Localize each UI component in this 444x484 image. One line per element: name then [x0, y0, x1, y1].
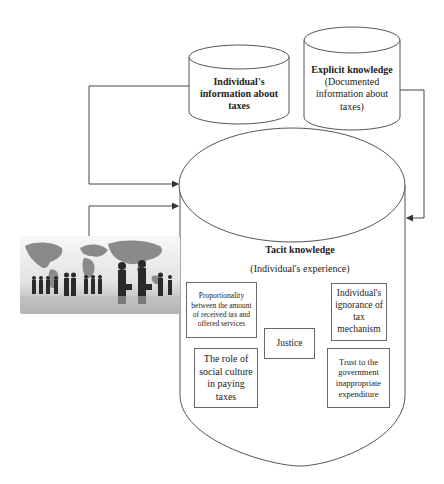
connector-image-to-tacit: [89, 206, 178, 236]
factor-trust-label: Trust to the government inappropriate ex…: [330, 357, 387, 400]
factor-trust-box: Trust to the government inappropriate ex…: [327, 348, 390, 408]
factor-justice-box: Justice: [264, 328, 315, 359]
factor-proportionality-box: Proportionality between the amount of re…: [186, 282, 257, 338]
tacit-knowledge-title: Tacit knowledge: [220, 244, 380, 256]
factor-social-culture-box: The role of social culture in paying tax…: [194, 348, 258, 408]
explicit-knowledge-text: Explicit knowledge (Documented informati…: [306, 64, 398, 113]
factor-ignorance-box: Individual's ignorance of tax mechanism: [331, 283, 387, 341]
individual-info-label: Individual's information about taxes: [194, 76, 284, 113]
world-map-icon: [20, 236, 180, 314]
factor-proportionality-label: Proportionality between the amount of re…: [189, 291, 254, 329]
factor-ignorance-label: Individual's ignorance of tax mechanism: [334, 288, 384, 336]
factor-social-culture-label: The role of social culture in paying tax…: [197, 353, 255, 403]
explicit-knowledge-subtitle: (Documented information about taxes): [306, 76, 398, 113]
explicit-knowledge-title: Explicit knowledge: [306, 64, 398, 76]
tacit-knowledge-subtitle: (Individual's experience): [220, 263, 380, 275]
world-map-business-people-image: [20, 236, 180, 314]
factor-justice-label: Justice: [277, 338, 303, 350]
connector-individual-to-tacit: [89, 86, 189, 184]
